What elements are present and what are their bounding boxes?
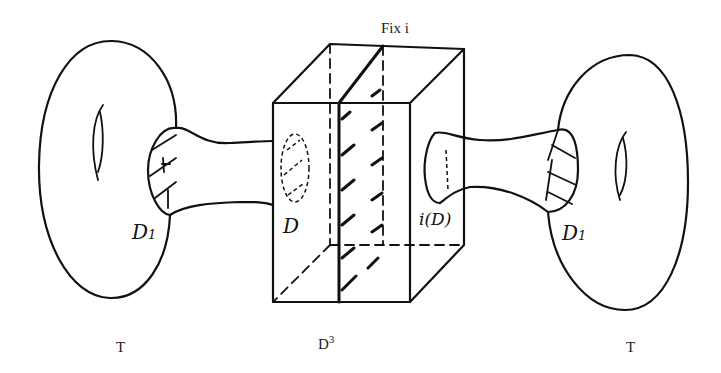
right-torus <box>546 55 688 310</box>
left-torus <box>39 41 176 298</box>
fix-i-label: Fix i <box>381 21 409 36</box>
left-tube <box>170 128 273 215</box>
left-disk-D1-label: D1 <box>132 222 156 242</box>
diagram-canvas <box>0 0 721 373</box>
disk-D-label: D <box>283 216 299 236</box>
right-tube <box>425 130 558 212</box>
fixed-plane <box>339 46 383 302</box>
left-torus-label: T <box>116 340 125 355</box>
ball-label-exponent: 3 <box>329 333 335 345</box>
right-disk-D1-label: D1 <box>562 223 586 243</box>
ball-d3 <box>273 44 464 302</box>
ball-label-base: D <box>318 336 329 352</box>
ball-label: D3 <box>318 334 334 352</box>
disk-iD-label: i(D) <box>419 211 451 228</box>
right-torus-label: T <box>626 340 635 355</box>
disk-D <box>281 134 309 202</box>
